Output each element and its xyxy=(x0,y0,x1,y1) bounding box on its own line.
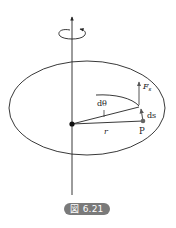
force-label: Fs xyxy=(142,82,152,92)
point-p xyxy=(141,119,146,124)
arc-length-label: ds xyxy=(147,111,156,120)
point-label: P xyxy=(139,126,145,136)
radius-label: r xyxy=(104,127,109,136)
disk-outline xyxy=(9,61,165,155)
figure-caption-badge: 図 6.21 xyxy=(64,203,110,215)
rotation-diagram: dθ r P ds Fs xyxy=(0,0,176,228)
angle-label: dθ xyxy=(97,99,107,108)
center-point xyxy=(69,121,74,126)
